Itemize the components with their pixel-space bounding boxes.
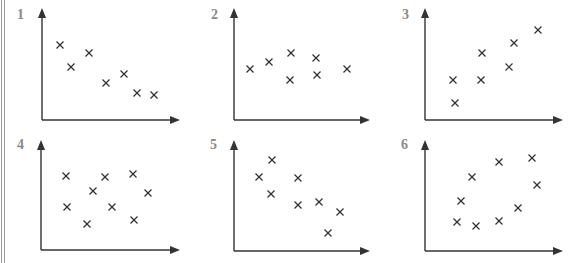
x-marker-icon [496, 218, 503, 225]
panel-number-label: 5 [210, 137, 217, 153]
x-marker-icon [268, 191, 275, 198]
x-marker-icon [247, 66, 254, 73]
x-marker-icon [511, 40, 518, 47]
scatter-panel-2 [230, 8, 370, 124]
x-marker-icon [325, 230, 332, 237]
x-marker-icon [109, 204, 116, 211]
x-marker-icon [256, 174, 263, 181]
x-marker-icon [314, 72, 321, 79]
x-marker-icon [295, 202, 302, 209]
x-marker-icon [145, 190, 152, 197]
x-marker-icon [63, 173, 70, 180]
x-marker-icon [452, 100, 459, 107]
scatter-panel-6 [421, 140, 563, 255]
x-axis-arrow-icon [170, 116, 180, 124]
x-marker-icon [316, 199, 323, 206]
y-axis-arrow-icon [38, 8, 46, 18]
x-marker-icon [473, 223, 480, 230]
x-marker-icon [313, 55, 320, 62]
panel-number-label: 1 [17, 7, 24, 23]
x-marker-icon [515, 205, 522, 212]
x-marker-icon [84, 221, 91, 228]
x-marker-icon [151, 92, 158, 99]
panel-number-label: 6 [401, 137, 408, 153]
x-marker-icon [86, 50, 93, 57]
x-marker-icon [454, 219, 461, 226]
scatter-panel-5 [230, 140, 370, 255]
scatter-panel-3 [421, 8, 563, 124]
x-marker-icon [103, 80, 110, 87]
x-marker-icon [269, 157, 276, 164]
scatter-panel-4 [37, 140, 180, 254]
x-marker-icon [134, 90, 141, 97]
x-marker-icon [90, 188, 97, 195]
y-axis-arrow-icon [230, 140, 238, 150]
x-marker-icon [102, 174, 109, 181]
x-marker-icon [479, 50, 486, 57]
x-marker-icon [535, 27, 542, 34]
x-marker-icon [344, 66, 351, 73]
x-marker-icon [496, 159, 503, 166]
x-marker-icon [57, 42, 64, 49]
scatter-plot-grid [0, 0, 573, 263]
x-marker-icon [288, 50, 295, 57]
x-marker-icon [64, 204, 71, 211]
x-marker-icon [287, 77, 294, 84]
panel-number-label: 2 [211, 7, 218, 23]
x-marker-icon [295, 175, 302, 182]
y-axis-arrow-icon [421, 8, 429, 18]
x-marker-icon [130, 171, 137, 178]
x-axis-arrow-icon [553, 247, 563, 255]
x-marker-icon [529, 155, 536, 162]
scatter-panel-1 [38, 8, 180, 124]
x-marker-icon [450, 77, 457, 84]
y-axis-arrow-icon [230, 8, 238, 18]
x-marker-icon [131, 217, 138, 224]
x-marker-icon [534, 182, 541, 189]
x-axis-arrow-icon [553, 116, 563, 124]
y-axis-arrow-icon [421, 140, 429, 150]
x-marker-icon [506, 64, 513, 71]
x-axis-arrow-icon [360, 247, 370, 255]
x-marker-icon [458, 198, 465, 205]
panel-number-label: 4 [17, 137, 24, 153]
y-axis-arrow-icon [37, 140, 45, 150]
x-marker-icon [337, 209, 344, 216]
x-marker-icon [478, 77, 485, 84]
x-marker-icon [121, 71, 128, 78]
x-marker-icon [266, 59, 273, 66]
x-marker-icon [469, 174, 476, 181]
x-axis-arrow-icon [170, 246, 180, 254]
x-axis-arrow-icon [360, 116, 370, 124]
panel-number-label: 3 [402, 7, 409, 23]
x-marker-icon [68, 64, 75, 71]
